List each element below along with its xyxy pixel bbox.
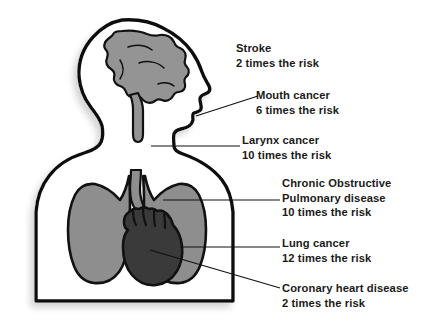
- label-lung-cancer-risk: 12 times the risk: [282, 251, 371, 266]
- label-copd-risk: 10 times the risk: [282, 205, 391, 220]
- label-mouth-cancer-condition: Mouth cancer: [256, 88, 339, 103]
- label-coronary-heart-disease: Coronary heart disease 2 times the risk: [282, 281, 409, 310]
- label-larynx-cancer-condition: Larynx cancer: [242, 133, 331, 148]
- label-lung-cancer-condition: Lung cancer: [282, 236, 371, 251]
- label-mouth-cancer-risk: 6 times the risk: [256, 103, 339, 118]
- label-larynx-cancer-risk: 10 times the risk: [242, 148, 331, 163]
- label-lung-cancer: Lung cancer 12 times the risk: [282, 236, 371, 265]
- label-copd-condition-line1: Chronic Obstructive: [282, 176, 391, 191]
- diagram-page: Stroke 2 times the risk Mouth cancer 6 t…: [0, 0, 432, 335]
- label-copd: Chronic Obstructive Pulmonary disease 10…: [282, 176, 391, 220]
- label-coronary-heart-disease-risk: 2 times the risk: [282, 296, 409, 311]
- brainstem-shape: [130, 93, 143, 142]
- label-stroke-risk: 2 times the risk: [236, 56, 319, 71]
- heart-great-vessels-detail-4: [164, 214, 165, 228]
- label-mouth-cancer: Mouth cancer 6 times the risk: [256, 88, 339, 117]
- label-copd-condition-line2: Pulmonary disease: [282, 191, 391, 206]
- label-stroke-condition: Stroke: [236, 41, 319, 56]
- heart-great-vessels-detail-3: [154, 211, 155, 226]
- leader-line-mouth-cancer: [196, 96, 258, 116]
- label-coronary-heart-disease-condition: Coronary heart disease: [282, 281, 409, 296]
- label-stroke: Stroke 2 times the risk: [236, 41, 319, 70]
- label-larynx-cancer: Larynx cancer 10 times the risk: [242, 133, 331, 162]
